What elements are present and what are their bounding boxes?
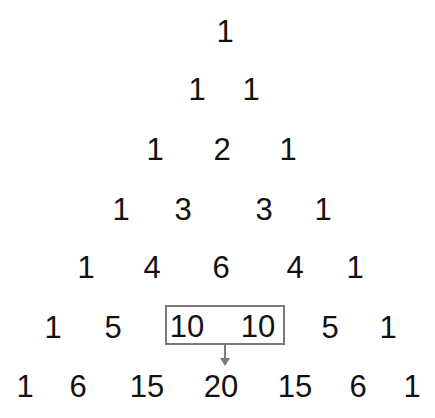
down-arrow-icon bbox=[0, 0, 435, 418]
pascal-triangle-diagram: 1 1 1 1 2 1 1 3 3 1 1 4 6 4 1 1 5 10 10 … bbox=[0, 0, 435, 418]
